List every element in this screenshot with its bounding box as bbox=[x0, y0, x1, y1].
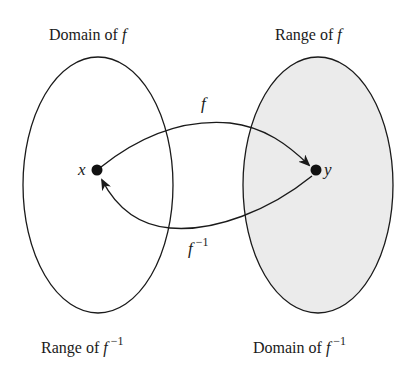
forward-arrow-label: f bbox=[201, 94, 208, 113]
function-inverse-diagram: x y f f−1 Domain of f Range of f Range o… bbox=[0, 0, 404, 371]
range-of-f-inverse-sup: −1 bbox=[111, 334, 124, 348]
domain-of-f-label: Domain of f bbox=[49, 26, 129, 44]
range-of-f-text: Range of bbox=[275, 26, 337, 44]
range-of-f-ellipse bbox=[243, 57, 393, 313]
domain-of-f-ellipse bbox=[23, 57, 173, 313]
point-y-dot bbox=[311, 165, 322, 176]
domain-of-f-inverse-text: Domain of bbox=[253, 339, 326, 356]
range-of-f-label: Range of f bbox=[275, 26, 344, 44]
domain-of-f-inverse-label: Domain of f−1 bbox=[253, 334, 346, 357]
diagram-canvas: x y f f−1 Domain of f Range of f Range o… bbox=[0, 0, 404, 371]
range-of-f-inverse-text: Range of bbox=[41, 339, 103, 357]
inverse-arrow-sup: −1 bbox=[196, 235, 209, 249]
domain-of-f-func: f bbox=[122, 26, 129, 44]
domain-of-f-text: Domain of bbox=[49, 26, 122, 43]
inverse-arrow-func: f bbox=[188, 239, 195, 258]
inverse-arrow-label: f−1 bbox=[188, 235, 209, 258]
point-y-label: y bbox=[322, 160, 332, 179]
domain-of-f-inverse-sup: −1 bbox=[333, 334, 346, 348]
range-of-f-inverse-func: f bbox=[103, 339, 110, 357]
range-of-f-func: f bbox=[337, 26, 344, 44]
point-x-dot bbox=[92, 165, 103, 176]
domain-of-f-inverse-func: f bbox=[326, 339, 333, 357]
range-of-f-inverse-label: Range of f−1 bbox=[41, 334, 123, 357]
point-x-label: x bbox=[77, 160, 86, 179]
